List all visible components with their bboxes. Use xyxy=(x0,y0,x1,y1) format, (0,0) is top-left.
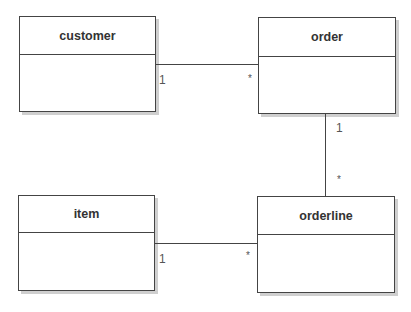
class-order-name: order xyxy=(259,18,395,57)
class-order[interactable]: order xyxy=(258,17,396,114)
association-order-orderline[interactable] xyxy=(325,114,326,196)
multiplicity-item-end: 1 xyxy=(159,253,166,265)
multiplicity-orderline-from-order-end: * xyxy=(337,175,341,185)
class-orderline[interactable]: orderline xyxy=(257,196,395,293)
multiplicity-orderline-from-item-end: * xyxy=(246,251,250,261)
multiplicity-order-end: * xyxy=(248,74,252,84)
multiplicity-customer-end: 1 xyxy=(159,74,166,86)
association-item-orderline[interactable] xyxy=(155,243,257,244)
class-customer-name: customer xyxy=(20,17,155,55)
association-customer-order[interactable] xyxy=(156,64,258,65)
class-item[interactable]: item xyxy=(18,195,155,291)
multiplicity-order-to-orderline-end: 1 xyxy=(336,122,343,134)
class-customer[interactable]: customer xyxy=(19,16,156,112)
class-orderline-name: orderline xyxy=(258,197,394,235)
class-item-name: item xyxy=(19,196,154,233)
